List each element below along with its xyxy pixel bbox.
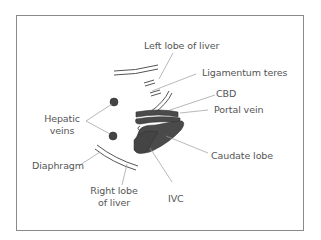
left-lobe-outline bbox=[114, 65, 158, 75]
label-cbd: CBD bbox=[216, 88, 236, 100]
leader-caudate-lobe bbox=[166, 136, 208, 153]
label-ligamentum-teres: Ligamentum teres bbox=[202, 67, 287, 79]
label-caudate-lobe: Caudate lobe bbox=[211, 150, 273, 162]
label-hepatic-veins-line2: veins bbox=[42, 125, 82, 137]
leader-left-lobe bbox=[159, 53, 173, 79]
label-hepatic-veins: Hepatic veins bbox=[42, 113, 82, 137]
label-right-lobe-line2: of liver bbox=[88, 197, 140, 209]
leader-cbd bbox=[170, 95, 215, 110]
label-right-lobe: Right lobe of liver bbox=[88, 185, 140, 209]
label-ivc: IVC bbox=[168, 193, 184, 205]
label-left-lobe: Left lobe of liver bbox=[144, 40, 219, 52]
ligamentum-teres-marks bbox=[144, 80, 161, 96]
diaphragm-outline bbox=[95, 145, 138, 170]
leader-right-lobe bbox=[122, 164, 127, 185]
label-diaphragm: Diaphragm bbox=[32, 160, 84, 172]
label-hepatic-veins-line1: Hepatic bbox=[42, 113, 82, 125]
label-portal-vein: Portal vein bbox=[214, 104, 263, 116]
leader-portal-vein bbox=[180, 110, 208, 113]
label-right-lobe-line1: Right lobe bbox=[88, 185, 140, 197]
hepatic-vein-dot-lower bbox=[109, 132, 117, 140]
leader-hepatic-lower bbox=[86, 121, 110, 134]
leader-hepatic-upper bbox=[86, 104, 112, 121]
leader-ivc bbox=[150, 148, 172, 182]
leader-ligamentum-teres bbox=[152, 74, 196, 91]
